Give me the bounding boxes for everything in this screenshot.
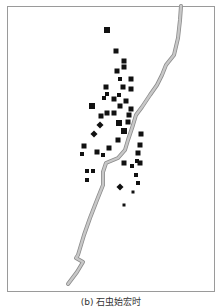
site-point — [130, 164, 134, 168]
site-point — [85, 169, 89, 173]
site-point — [105, 111, 110, 116]
site-point — [127, 113, 132, 118]
site-point — [104, 27, 110, 33]
site-point — [122, 59, 127, 64]
site-point — [122, 161, 127, 166]
site-point — [124, 99, 129, 104]
site-point — [115, 69, 120, 74]
site-point — [105, 92, 109, 96]
site-point — [126, 120, 131, 125]
site-point — [102, 96, 106, 100]
site-point — [107, 146, 112, 151]
site-point — [95, 150, 100, 155]
site-point — [99, 114, 104, 119]
site-point — [129, 77, 134, 82]
site-point — [136, 181, 140, 185]
site-point — [90, 130, 97, 137]
site-point — [129, 107, 134, 112]
site-point — [101, 153, 105, 157]
site-point — [123, 204, 126, 207]
site-point — [118, 104, 123, 109]
site-point — [85, 178, 89, 182]
site-point — [112, 111, 117, 116]
site-point — [135, 159, 139, 163]
site-point — [138, 143, 143, 148]
site-point — [82, 144, 87, 149]
site-point — [121, 85, 126, 90]
site-point — [96, 121, 103, 128]
site-point — [118, 77, 122, 81]
site-point — [116, 120, 122, 126]
site-point — [132, 191, 135, 194]
map-canvas — [0, 0, 222, 307]
site-point — [121, 128, 127, 134]
site-point — [89, 103, 95, 109]
figure-caption: (b) 石虫始宏时 — [0, 297, 222, 307]
site-point — [91, 169, 95, 173]
site-point — [139, 132, 144, 137]
site-point — [80, 152, 84, 156]
site-point — [122, 65, 127, 70]
site-point — [129, 87, 134, 92]
site-point — [114, 49, 119, 54]
site-point — [136, 151, 141, 156]
site-point — [116, 183, 123, 190]
site-point — [112, 97, 117, 102]
site-point — [117, 93, 121, 97]
site-point — [134, 173, 138, 177]
site-point — [116, 138, 121, 143]
site-point — [104, 85, 109, 90]
